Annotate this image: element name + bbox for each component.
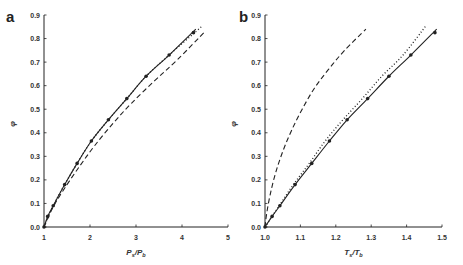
x-tick-label: 1.2 (331, 234, 341, 241)
y-tick-label: 0.2 (251, 176, 261, 183)
y-tick-label: 0.8 (251, 35, 261, 42)
y-tick-label: 0.5 (30, 106, 40, 113)
y-tick-label: 0.6 (251, 82, 261, 89)
x-tick-label: 1.1 (296, 234, 306, 241)
y-tick-label: 0.3 (251, 153, 261, 160)
dotted-curve (265, 26, 426, 227)
panel-a-label: a (6, 8, 15, 25)
x-tick-label: 1 (42, 234, 46, 241)
x-tick-label: 4 (180, 234, 184, 241)
panel-b-chart: 0.00.10.20.30.40.50.60.70.80.91.01.11.21… (229, 12, 447, 258)
x-tick-label: 1.3 (366, 234, 376, 241)
y-tick-label: 0.8 (30, 35, 40, 42)
y-tick-label: 0.4 (30, 129, 40, 136)
y-tick-label: 0.7 (30, 59, 40, 66)
y-tick-label: 0.4 (251, 129, 261, 136)
dashed-curve (44, 31, 205, 227)
y-tick-label: 0.0 (30, 224, 40, 231)
x-tick-label: 1.4 (402, 234, 412, 241)
y-axis-label: φ (8, 121, 17, 127)
x-tick-label: 3 (134, 234, 138, 241)
y-tick-label: 0.0 (251, 224, 261, 231)
x-axis-label: Ts/Tb (344, 248, 363, 258)
y-tick-label: 0.9 (251, 12, 261, 19)
figure: 0.00.10.20.30.40.50.60.70.80.912345Ps/Pb… (0, 0, 463, 265)
x-tick-label: 5 (226, 234, 230, 241)
dashed-curve (265, 29, 366, 227)
y-tick-label: 0.1 (251, 200, 261, 207)
x-tick-label: 1.5 (437, 234, 447, 241)
dotted-curve (44, 26, 203, 227)
y-tick-label: 0.7 (251, 59, 261, 66)
y-axis-label: φ (229, 121, 238, 127)
y-tick-label: 0.6 (30, 82, 40, 89)
panel-a-chart: 0.00.10.20.30.40.50.60.70.80.912345Ps/Pb… (8, 12, 230, 258)
y-tick-label: 0.3 (30, 153, 40, 160)
x-tick-label: 1.0 (260, 234, 270, 241)
solid-curve (44, 29, 196, 227)
y-tick-label: 0.5 (251, 106, 261, 113)
y-tick-label: 0.1 (30, 200, 40, 207)
y-tick-label: 0.2 (30, 176, 40, 183)
x-axis-label: Ps/Pb (126, 248, 146, 258)
y-tick-label: 0.9 (30, 12, 40, 19)
x-tick-label: 2 (88, 234, 92, 241)
panel-b-label: b (239, 8, 248, 25)
solid-curve (265, 29, 437, 227)
